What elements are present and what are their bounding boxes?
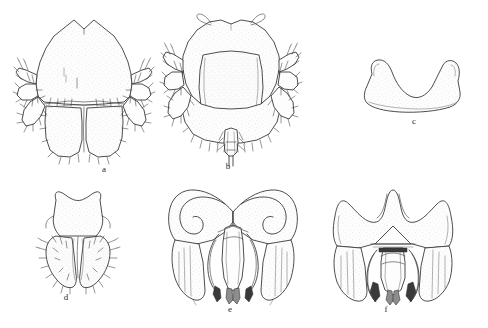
panel-a <box>14 12 154 164</box>
panel-c-label: c <box>406 116 422 126</box>
panel-f <box>323 182 463 306</box>
panel-f-label: f <box>378 304 394 314</box>
panel-b <box>163 10 299 168</box>
figure-plate: a <box>0 0 488 328</box>
panel-b-label: b <box>220 161 236 171</box>
panel-d-label: d <box>58 292 74 302</box>
panel-e <box>163 182 303 306</box>
panel-c <box>356 56 474 118</box>
panel-d <box>36 186 120 294</box>
panel-e-label: e <box>222 304 238 314</box>
panel-a-label: a <box>96 164 112 174</box>
